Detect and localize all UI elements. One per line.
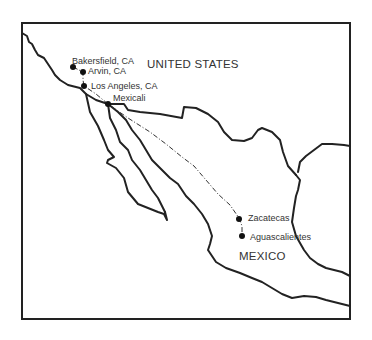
city-label-bakersfield: Bakersfield, CA (72, 57, 134, 66)
baja-gulf-coastline (108, 104, 165, 212)
city-label-los-angeles: Los Angeles, CA (91, 82, 158, 91)
texas-coastline (298, 144, 350, 172)
map-canvas (0, 0, 372, 340)
city-label-zacatecas: Zacatecas (248, 214, 290, 223)
city-label-mexicali: Mexicali (113, 94, 146, 103)
mainland-gulf-coastline (108, 104, 350, 306)
city-dot-los-angeles (81, 83, 87, 89)
city-label-aguascalientes: Aguascalientes (250, 233, 311, 242)
migration-route (73, 67, 242, 236)
city-dot-arvin (80, 69, 86, 75)
country-label-united-states: UNITED STATES (147, 59, 239, 71)
city-dot-zacatecas (236, 216, 242, 222)
gulf-of-mexico-coastline (292, 175, 350, 276)
city-label-arvin: Arvin, CA (88, 67, 126, 76)
city-dot-mexicali (105, 101, 111, 107)
city-dot-aguascalientes (239, 233, 245, 239)
country-label-mexico: MEXICO (239, 251, 286, 263)
